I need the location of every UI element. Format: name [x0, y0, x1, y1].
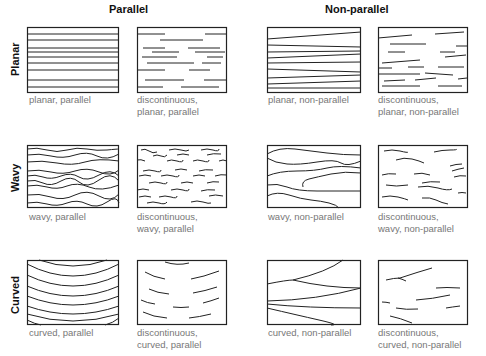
diagram-curved-parallel	[27, 260, 119, 325]
caption-wavy-parallel: wavy, parallel	[29, 211, 86, 223]
column-header-non-parallel: Non-parallel	[325, 3, 389, 15]
caption-discontinuous-curved-parallel: discontinuous, curved, parallel	[137, 327, 201, 351]
diagram-planar-parallel	[27, 27, 119, 93]
diagram-discontinuous-wavy-parallel	[137, 145, 227, 208]
caption-planar-parallel: planar, parallel	[29, 94, 91, 106]
row-header-wavy: Wavy	[9, 164, 21, 192]
caption-discontinuous-planar-parallel: discontinuous, planar, parallel	[137, 94, 199, 118]
row-header-curved: Curved	[9, 276, 21, 314]
diagram-discontinuous-planar-parallel	[137, 27, 227, 93]
diagram-wavy-non-parallel	[267, 145, 361, 208]
caption-discontinuous-wavy-non-parallel: discontinuous, wavy, non-parallel	[378, 211, 454, 235]
diagram-planar-non-parallel	[267, 27, 361, 93]
caption-wavy-non-parallel: wavy, non-parallel	[268, 211, 344, 223]
caption-curved-non-parallel: curved, non-parallel	[268, 327, 351, 339]
column-header-parallel: Parallel	[109, 3, 148, 15]
row-header-planar: Planar	[9, 42, 21, 76]
diagram-discontinuous-planar-non-parallel	[378, 27, 468, 93]
caption-curved-parallel: curved, parallel	[29, 327, 93, 339]
caption-discontinuous-wavy-parallel: discontinuous, wavy, parallel	[137, 211, 198, 235]
diagram-wavy-parallel	[27, 145, 119, 208]
diagram-discontinuous-wavy-non-parallel	[378, 145, 468, 208]
caption-planar-non-parallel: planar, non-parallel	[268, 94, 349, 106]
diagram-discontinuous-curved-parallel	[137, 260, 227, 325]
caption-discontinuous-curved-non-parallel: discontinuous, curved, non-parallel	[378, 327, 461, 351]
diagram-curved-non-parallel	[267, 260, 361, 325]
diagram-discontinuous-curved-non-parallel	[378, 260, 468, 325]
caption-discontinuous-planar-non-parallel: discontinuous, planar, non-parallel	[378, 94, 459, 118]
